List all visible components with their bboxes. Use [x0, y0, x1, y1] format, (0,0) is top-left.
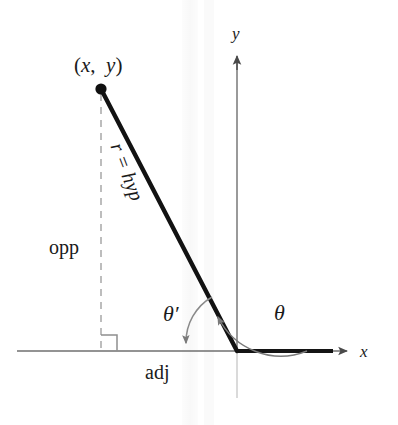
point-label-comma: ,	[90, 53, 95, 77]
x-axis-label: x	[360, 343, 368, 360]
point-coordinates-label: (x, y)	[74, 55, 122, 76]
right-angle-marker	[101, 335, 117, 351]
diagram-canvas	[0, 0, 398, 425]
trigonometry-diagram: (x, y) y x opp adj r = hyp θ θ′	[0, 0, 398, 425]
adjacent-side-label: adj	[145, 362, 169, 382]
point-label-open-paren: (	[74, 53, 81, 77]
point-label-close-paren: )	[115, 53, 122, 77]
theta-prime-angle-label: θ′	[163, 303, 179, 325]
point-label-y: y	[106, 53, 115, 77]
y-axis-label: y	[232, 25, 240, 42]
theta-prime-arc	[186, 297, 212, 343]
opposite-side-label: opp	[49, 237, 79, 257]
point-label-x: x	[81, 53, 90, 77]
point-dot	[95, 83, 106, 94]
theta-angle-label: θ	[274, 302, 285, 324]
